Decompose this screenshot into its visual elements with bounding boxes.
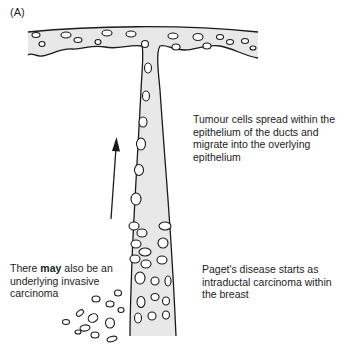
- label-tumour-spread: Tumour cells spread within the epitheliu…: [193, 113, 342, 163]
- label-invasive-pre: There: [10, 262, 40, 274]
- label-invasive-emphasis: may: [40, 262, 61, 274]
- label-paget-start: Paget's disease starts as intraductal ca…: [202, 263, 342, 301]
- upward-migration-arrow-icon: [111, 137, 120, 219]
- panel-label: (A): [10, 6, 25, 19]
- label-invasive-carcinoma: There may also be an underlying invasive…: [10, 262, 120, 300]
